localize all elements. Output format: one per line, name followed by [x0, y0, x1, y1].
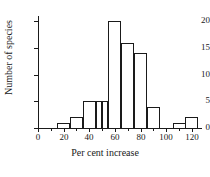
x-axis-minor-tick: [153, 128, 154, 131]
x-axis-tick-label: 120: [180, 132, 204, 142]
x-axis-tick-label: 60: [103, 132, 127, 142]
x-axis-tick-label: 0: [26, 132, 50, 142]
histogram-bar: [83, 101, 96, 128]
x-axis-tick-label: 80: [129, 132, 153, 142]
histogram-bar: [147, 107, 160, 128]
x-axis-minor-tick: [51, 128, 52, 131]
x-axis-tick-label: 40: [77, 132, 101, 142]
x-axis-minor-tick: [128, 128, 129, 131]
x-axis-tick-label: 100: [154, 132, 178, 142]
histogram-bar: [108, 21, 121, 128]
histogram-bar: [134, 53, 147, 128]
histogram-bar: [121, 43, 134, 128]
x-axis-tick-label: 20: [52, 132, 76, 142]
y-axis-title: Number of species: [3, 3, 14, 113]
x-axis-line: [38, 128, 202, 129]
histogram-figure: 05101520020406080100120 Per cent increas…: [0, 0, 210, 177]
histogram-bar: [185, 117, 198, 128]
histogram-bar: [57, 123, 70, 128]
x-axis-minor-tick: [179, 128, 180, 131]
x-axis-minor-tick: [76, 128, 77, 131]
x-axis-title: Per cent increase: [0, 147, 210, 158]
histogram-bar: [70, 117, 83, 128]
x-axis-minor-tick: [102, 128, 103, 131]
